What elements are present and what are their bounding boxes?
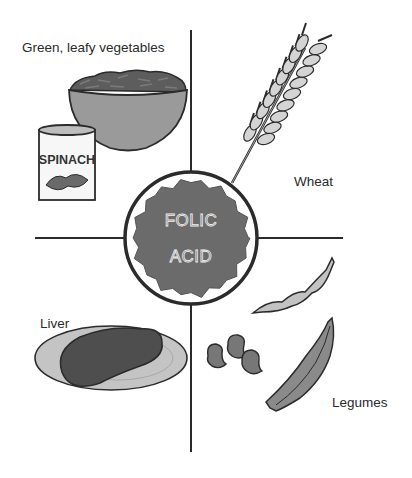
label-liver: Liver	[40, 316, 70, 331]
wheat-awn	[302, 23, 306, 35]
spinach-can-label: SPINACH	[39, 153, 95, 167]
label-green-leafy-vegetables: Green, leafy vegetables	[22, 40, 165, 55]
label-legumes: Legumes	[332, 395, 388, 410]
label-wheat: Wheat	[294, 174, 333, 189]
wheat-awn	[318, 35, 332, 41]
center-text-acid: ACID	[170, 247, 213, 266]
liver-plate-icon	[35, 326, 187, 390]
wheat-grain	[288, 75, 308, 91]
wheat-grain	[282, 86, 302, 102]
green-bean-icon	[253, 258, 334, 313]
pea-pod-icon	[266, 318, 334, 411]
spinach-can-icon: SPINACH	[39, 125, 95, 200]
folic-acid-center-badge: FOLIC ACID	[125, 172, 257, 304]
wheat-grain	[308, 41, 328, 57]
wheat-grain	[295, 64, 315, 80]
kidney-beans-icon	[208, 335, 263, 374]
center-text-folic: FOLIC	[165, 211, 218, 230]
wheat-grain	[275, 98, 295, 114]
folic-acid-diagram: SPINACH Green, leafy vegetables Wheat FO…	[0, 0, 412, 478]
wheat-icon	[232, 23, 332, 183]
wheat-grain	[301, 53, 321, 69]
